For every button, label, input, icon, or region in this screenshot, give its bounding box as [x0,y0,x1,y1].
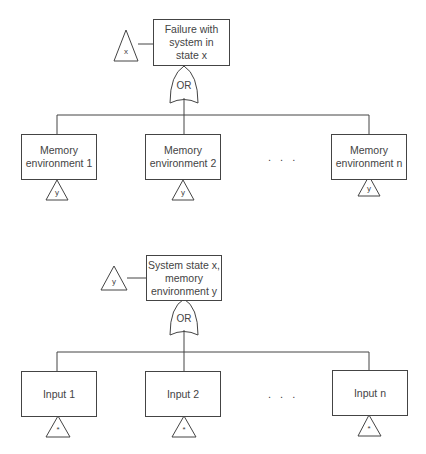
ellipsis: . . . [268,388,298,400]
transfer-triangle-x [114,30,138,61]
event-line: environment 1 [26,157,93,170]
event-box: Input n [332,370,408,416]
event-line: Memory [336,144,403,157]
transfer-label: y [359,184,379,193]
transfer-label: x [116,47,136,56]
top-event-box: Failure with system in state x [153,19,230,66]
top-event-line: system in [165,36,219,49]
event-box: Memory environment 2 [145,134,221,180]
transfer-label: y [173,188,193,197]
top-event-line: Failure with [165,23,219,36]
event-line: Input 1 [43,388,75,401]
event-line: Input n [354,387,386,400]
top-event-line: environment y [148,285,220,298]
top-event-line: memory [148,272,220,285]
top-event-box: System state x, memory environment y [146,255,222,301]
event-line: Input 2 [167,388,199,401]
transfer-label: y [104,277,124,286]
transfer-label: * [359,424,379,433]
top-event-line: state x [165,49,219,62]
event-box: Input 1 [21,371,97,417]
event-box: Memory environment n [331,134,407,180]
ellipsis: . . . [268,151,298,163]
transfer-label: * [174,425,194,434]
event-line: Memory [150,144,217,157]
event-line: environment 2 [150,157,217,170]
event-box: Memory environment 1 [21,134,97,180]
gate-label: OR [169,80,199,91]
event-line: Memory [26,144,93,157]
transfer-label: y [47,188,67,197]
transfer-label: * [48,425,68,434]
gate-label: OR [169,313,199,324]
event-box: Input 2 [145,371,221,417]
event-line: environment n [336,157,403,170]
top-event-line: System state x, [148,259,220,272]
